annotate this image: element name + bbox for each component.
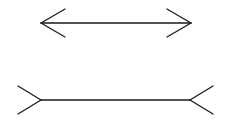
bottom-line-fins <box>18 86 213 114</box>
top-line-arrowheads <box>41 9 191 37</box>
right-fin-lower <box>167 23 191 37</box>
right-fin-upper <box>167 9 191 23</box>
left-fin-upper <box>18 86 41 100</box>
muller-lyer-figure <box>0 0 229 121</box>
right-fin-upper <box>190 86 213 100</box>
left-fin-lower <box>41 23 65 37</box>
right-fin-lower <box>190 100 213 114</box>
left-fin-lower <box>18 100 41 114</box>
left-fin-upper <box>41 9 65 23</box>
